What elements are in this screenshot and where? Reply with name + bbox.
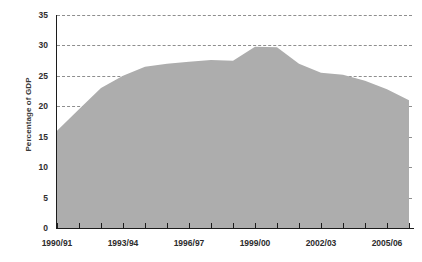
x-axis-tick (321, 223, 322, 229)
x-tick-label: 1993/94 (93, 238, 153, 248)
y-axis-line (56, 15, 57, 229)
x-axis-tick (145, 223, 146, 229)
x-axis-tick (299, 223, 300, 229)
x-axis-tick (277, 223, 278, 229)
x-tick-label: 1996/97 (159, 238, 219, 248)
x-axis-tick (167, 223, 168, 229)
x-axis-tick (211, 223, 212, 229)
x-axis-line (57, 228, 414, 229)
x-tick-label: 2005/06 (357, 238, 417, 248)
x-axis-tick (409, 223, 410, 229)
x-tick-label: 1990/91 (27, 238, 87, 248)
x-axis-tick (365, 223, 366, 229)
x-axis-tick (387, 223, 388, 229)
x-axis-tick (79, 223, 80, 229)
area-chart: Percentage of GDP 35 30 25 20 15 10 5 0 … (0, 0, 422, 262)
x-axis-tick (233, 223, 234, 229)
x-axis-tick (123, 223, 124, 229)
x-tick-label: 1999/00 (225, 238, 285, 248)
area-series-fill (57, 47, 409, 228)
x-axis-tick (57, 223, 58, 229)
x-axis-tick (255, 223, 256, 229)
x-tick-label: 2002/03 (291, 238, 351, 248)
x-axis-tick (343, 223, 344, 229)
x-axis-tick (189, 223, 190, 229)
x-axis-tick (101, 223, 102, 229)
